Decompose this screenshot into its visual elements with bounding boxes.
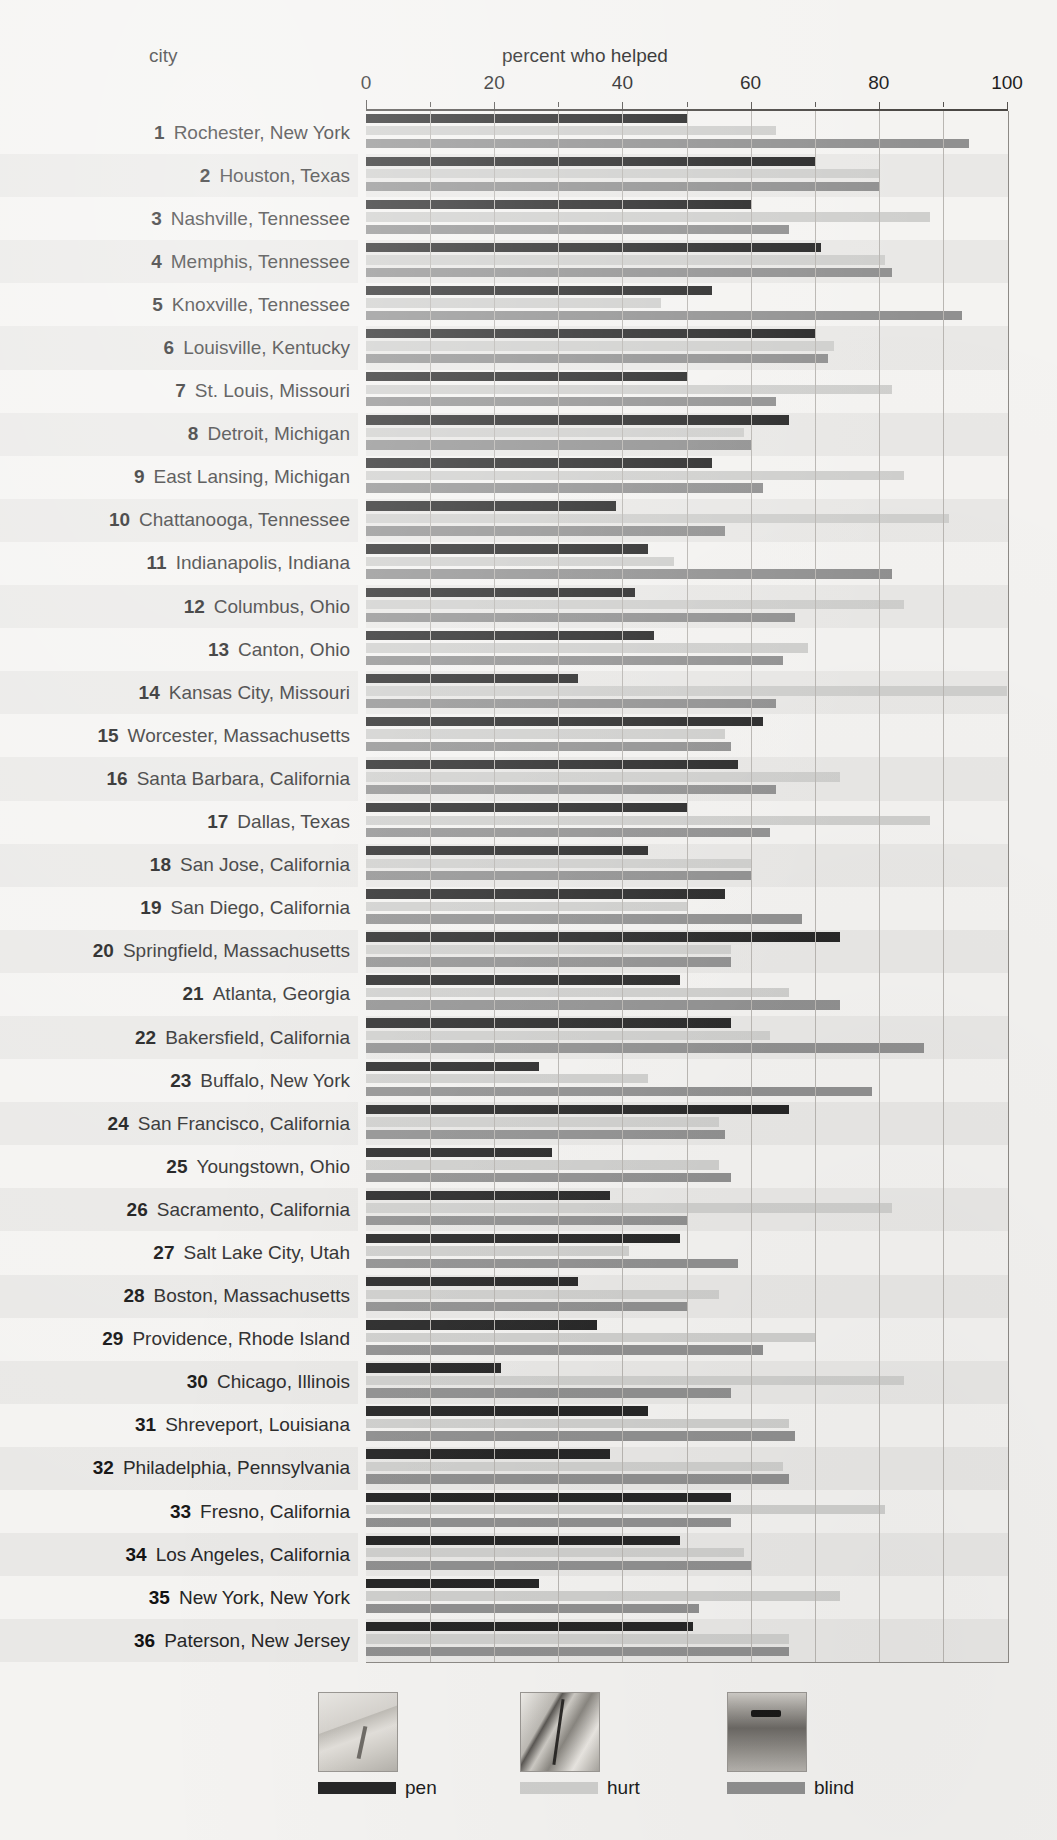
bar-blind[interactable] [366, 742, 731, 751]
bar-blind[interactable] [366, 354, 828, 363]
bar-blind[interactable] [366, 1345, 763, 1354]
bar-pen[interactable] [366, 372, 687, 381]
bar-hurt[interactable] [366, 1246, 629, 1255]
city-label-row: 28Boston, Massachusetts [0, 1275, 358, 1318]
bar-blind[interactable] [366, 656, 783, 665]
bar-hurt[interactable] [366, 1074, 648, 1083]
bar-blind[interactable] [366, 1043, 924, 1052]
bar-pen[interactable] [366, 544, 648, 553]
bar-hurt[interactable] [366, 385, 892, 394]
bar-pen[interactable] [366, 114, 687, 123]
bar-hurt[interactable] [366, 1376, 904, 1385]
bar-hurt[interactable] [366, 557, 674, 566]
bar-blind[interactable] [366, 1302, 687, 1311]
bar-hurt[interactable] [366, 772, 840, 781]
bar-pen[interactable] [366, 932, 840, 941]
bar-hurt[interactable] [366, 1160, 719, 1169]
bar-blind[interactable] [366, 1259, 738, 1268]
bar-pen[interactable] [366, 1536, 680, 1545]
city-label-row: 12Columbus, Ohio [0, 585, 358, 628]
city-label-row: 19San Diego, California [0, 887, 358, 930]
bar-hurt[interactable] [366, 729, 725, 738]
bar-pen[interactable] [366, 1406, 648, 1415]
bar-hurt[interactable] [366, 1333, 815, 1342]
bar-hurt[interactable] [366, 643, 808, 652]
bar-blind[interactable] [366, 1000, 840, 1009]
bar-pen[interactable] [366, 631, 654, 640]
bar-pen[interactable] [366, 1062, 539, 1071]
city-label-row: 20Springfield, Massachusetts [0, 930, 358, 973]
bar-pen[interactable] [366, 1449, 610, 1458]
bar-hurt[interactable] [366, 341, 834, 350]
bar-pen[interactable] [366, 1277, 578, 1286]
bar-pen[interactable] [366, 889, 725, 898]
bar-hurt[interactable] [366, 1031, 770, 1040]
legend-item-hurt[interactable]: hurt [520, 1692, 640, 1799]
bar-hurt[interactable] [366, 1290, 719, 1299]
bar-pen[interactable] [366, 588, 635, 597]
bar-pen[interactable] [366, 501, 616, 510]
bar-blind[interactable] [366, 526, 725, 535]
bar-hurt[interactable] [366, 471, 904, 480]
bar-pen[interactable] [366, 1493, 731, 1502]
bar-hurt[interactable] [366, 816, 930, 825]
bar-blind[interactable] [366, 1130, 725, 1139]
bar-hurt[interactable] [366, 1462, 783, 1471]
bar-blind[interactable] [366, 1604, 699, 1613]
bar-pen[interactable] [366, 1191, 610, 1200]
bar-blind[interactable] [366, 1388, 731, 1397]
bar-pen[interactable] [366, 1018, 731, 1027]
bar-pen[interactable] [366, 157, 815, 166]
bar-blind[interactable] [366, 397, 776, 406]
bar-blind[interactable] [366, 785, 776, 794]
bar-pen[interactable] [366, 1234, 680, 1243]
bar-blind[interactable] [366, 1216, 687, 1225]
bar-hurt[interactable] [366, 1591, 840, 1600]
bar-pen[interactable] [366, 803, 687, 812]
bar-pen[interactable] [366, 1363, 501, 1372]
bar-hurt[interactable] [366, 212, 930, 221]
city-name: Los Angeles, California [156, 1544, 350, 1566]
bar-hurt[interactable] [366, 945, 731, 954]
bar-pen[interactable] [366, 329, 815, 338]
bar-blind[interactable] [366, 828, 770, 837]
city-rank: 26 [127, 1199, 148, 1221]
bar-blind[interactable] [366, 1173, 731, 1182]
bar-hurt[interactable] [366, 1505, 885, 1514]
bar-pen[interactable] [366, 1320, 597, 1329]
bar-pen[interactable] [366, 760, 738, 769]
legend-item-blind[interactable]: blind [727, 1692, 854, 1799]
bar-blind[interactable] [366, 957, 731, 966]
bar-blind[interactable] [366, 699, 776, 708]
bar-blind[interactable] [366, 569, 892, 578]
bar-pen[interactable] [366, 286, 712, 295]
bar-blind[interactable] [366, 483, 763, 492]
bar-hurt[interactable] [366, 1117, 719, 1126]
city-rank: 25 [166, 1156, 187, 1178]
bar-pen[interactable] [366, 717, 763, 726]
bar-hurt[interactable] [366, 600, 904, 609]
bar-hurt[interactable] [366, 1203, 892, 1212]
bar-pen[interactable] [366, 975, 680, 984]
bar-blind[interactable] [366, 1518, 731, 1527]
bar-blind[interactable] [366, 914, 802, 923]
bar-pen[interactable] [366, 1579, 539, 1588]
bar-pen[interactable] [366, 458, 712, 467]
bar-hurt[interactable] [366, 514, 949, 523]
legend-item-pen[interactable]: pen [318, 1692, 437, 1799]
bar-hurt[interactable] [366, 126, 776, 135]
bar-hurt[interactable] [366, 255, 885, 264]
bar-pen[interactable] [366, 1148, 552, 1157]
city-name: Sacramento, California [157, 1199, 350, 1221]
city-name: San Jose, California [180, 854, 350, 876]
bar-pen[interactable] [366, 674, 578, 683]
bar-pen[interactable] [366, 243, 821, 252]
bar-blind[interactable] [366, 311, 962, 320]
bar-hurt[interactable] [366, 298, 661, 307]
bar-pen[interactable] [366, 1622, 693, 1631]
bar-blind[interactable] [366, 1087, 872, 1096]
bar-blind[interactable] [366, 268, 892, 277]
city-rank: 34 [126, 1544, 147, 1566]
bar-hurt[interactable] [366, 902, 687, 911]
bar-pen[interactable] [366, 846, 648, 855]
